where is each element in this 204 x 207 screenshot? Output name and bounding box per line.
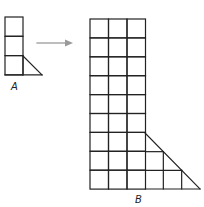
shape-a <box>5 17 42 75</box>
grid-cell <box>109 170 128 189</box>
arrow-head-icon <box>65 40 73 47</box>
grid-cell <box>90 38 109 57</box>
grid-cell <box>127 95 146 114</box>
grid-cell <box>127 132 146 151</box>
grid-cell <box>109 57 128 76</box>
grid-cell <box>109 19 128 38</box>
grid-cell <box>90 76 109 95</box>
grid-cell <box>127 151 146 170</box>
grid-cell <box>109 76 128 95</box>
grid-cell <box>90 114 109 133</box>
grid-cell <box>90 95 109 114</box>
label-b: B <box>135 194 142 205</box>
grid-cell <box>127 170 146 189</box>
grid-cell <box>5 36 23 55</box>
grid-cell <box>109 151 128 170</box>
grid-cell <box>127 114 146 133</box>
shape-b <box>90 19 200 189</box>
arrow <box>37 40 73 47</box>
label-a: A <box>10 81 18 92</box>
grid-cell <box>90 57 109 76</box>
grid-cell <box>109 114 128 133</box>
grid-cell <box>127 38 146 57</box>
grid-cell <box>109 38 128 57</box>
grid-cell <box>5 17 23 36</box>
grid-cell <box>109 95 128 114</box>
grid-cell <box>127 19 146 38</box>
grid-cell <box>90 170 109 189</box>
grid-cell <box>109 132 128 151</box>
grid-cell <box>127 76 146 95</box>
grid-cell <box>90 151 109 170</box>
grid-cell <box>127 57 146 76</box>
grid-cell <box>90 19 109 38</box>
grid-cell <box>5 56 23 75</box>
dilation-diagram: A B <box>0 0 204 207</box>
grid-cell <box>90 132 109 151</box>
